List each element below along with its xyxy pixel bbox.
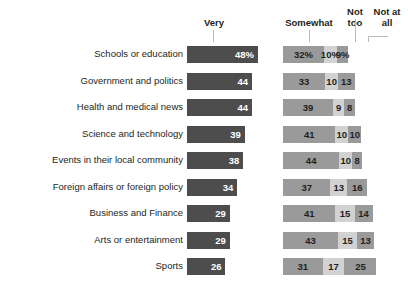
category-label: Events in their local community	[0, 150, 183, 170]
very-value: 38	[229, 152, 240, 169]
chart-row: Foreign affairs or foreign policy3437131…	[0, 177, 408, 197]
category-label: Government and politics	[0, 71, 183, 91]
segment-not-at-all: 13	[357, 232, 374, 249]
segment-not-too: 15	[338, 232, 357, 249]
segment-somewhat-value: 32%	[294, 49, 313, 60]
segment-not-too-value: 15	[340, 208, 351, 219]
segment-somewhat-value: 31	[298, 261, 309, 272]
segment-not-at-all-value: 13	[341, 76, 352, 87]
segment-not-at-all: 10	[348, 126, 361, 143]
very-value: 34	[223, 179, 234, 196]
segment-somewhat-value: 43	[305, 235, 316, 246]
very-value: 48%	[235, 46, 254, 63]
category-label: Health and medical news	[0, 97, 183, 117]
segment-somewhat: 41	[283, 205, 335, 222]
column-header-somewhat: Somewhat	[278, 18, 340, 29]
segment-not-too: 17	[323, 258, 345, 275]
category-label: Schools or education	[0, 44, 183, 64]
very-bar-wrapper: 29	[187, 205, 230, 222]
leader-line-very	[213, 30, 214, 42]
category-label: Sports	[0, 256, 183, 276]
segment-not-at-all: 9%	[337, 46, 349, 63]
very-value: 44	[238, 73, 249, 90]
chart-row: Health and medical news443998	[0, 97, 408, 117]
column-header-not-at-all: Not at all	[368, 7, 406, 28]
segment-not-too: 10	[339, 152, 352, 169]
segment-not-too: 10	[325, 73, 338, 90]
chart-row: Business and Finance29411514	[0, 203, 408, 223]
segment-not-at-all-value: 16	[352, 182, 363, 193]
leader-line-not-too	[355, 19, 356, 42]
segment-not-too: 13	[330, 179, 347, 196]
segment-not-too: 10	[335, 126, 348, 143]
stacked-bar: 331013	[283, 73, 355, 90]
chart-row: Events in their local community3844108	[0, 150, 408, 170]
segment-not-at-all-value: 25	[355, 261, 366, 272]
category-label: Foreign affairs or foreign policy	[0, 177, 183, 197]
segment-somewhat: 37	[283, 179, 330, 196]
segment-somewhat: 31	[283, 258, 323, 275]
interest-by-topic-chart: Very Somewhat Not too Not at all Schools…	[0, 0, 408, 292]
very-bar: 39	[187, 126, 245, 143]
very-value: 29	[215, 232, 226, 249]
category-label: Science and technology	[0, 124, 183, 144]
segment-not-at-all: 8	[344, 99, 354, 116]
very-bar: 44	[187, 99, 252, 116]
segment-not-too-value: 13	[333, 182, 344, 193]
segment-somewhat: 32%	[283, 46, 324, 63]
segment-somewhat: 43	[283, 232, 338, 249]
stacked-bar: 371316	[283, 179, 367, 196]
very-bar: 38	[187, 152, 243, 169]
stacked-bar: 431513	[283, 232, 374, 249]
stacked-bar: 32%10%9%	[283, 46, 348, 63]
stacked-bar: 411514	[283, 205, 373, 222]
segment-somewhat-value: 41	[304, 129, 315, 140]
very-bar: 34	[187, 179, 237, 196]
segment-somewhat-value: 41	[304, 208, 315, 219]
stacked-bar: 411010	[283, 126, 361, 143]
segment-not-too-value: 15	[342, 235, 353, 246]
very-value: 44	[238, 99, 249, 116]
very-bar-wrapper: 38	[187, 152, 243, 169]
very-bar: 48%	[187, 46, 258, 63]
segment-not-at-all: 13	[338, 73, 355, 90]
leader-line-not-at-all-drop	[368, 36, 369, 42]
very-bar-wrapper: 26	[187, 258, 225, 275]
very-bar-wrapper: 29	[187, 232, 230, 249]
segment-somewhat-value: 44	[306, 155, 317, 166]
very-value: 29	[215, 205, 226, 222]
segment-not-too-value: 9	[336, 102, 341, 113]
very-bar-wrapper: 44	[187, 73, 252, 90]
segment-not-at-all: 25	[344, 258, 376, 275]
segment-not-too-value: 10	[326, 76, 337, 87]
very-value: 39	[230, 126, 241, 143]
very-value: 26	[211, 258, 222, 275]
chart-row: Sports26311725	[0, 256, 408, 276]
segment-not-too: 9	[333, 99, 345, 116]
chart-row: Arts or entertainment29431513	[0, 230, 408, 250]
segment-somewhat: 39	[283, 99, 333, 116]
segment-not-too-value: 10	[337, 129, 348, 140]
chart-row: Schools or education48%32%10%9%	[0, 44, 408, 64]
leader-line-not-at-all	[368, 36, 388, 37]
stacked-bar: 44108	[283, 152, 362, 169]
segment-somewhat-value: 39	[303, 102, 314, 113]
very-bar-wrapper: 34	[187, 179, 237, 196]
very-bar-wrapper: 39	[187, 126, 245, 143]
segment-somewhat: 41	[283, 126, 335, 143]
segment-not-at-all-value: 14	[358, 208, 369, 219]
very-bar: 29	[187, 232, 230, 249]
chart-header: Very Somewhat Not too Not at all	[0, 0, 408, 42]
segment-not-at-all-value: 13	[360, 235, 371, 246]
stacked-bar: 3998	[283, 99, 355, 116]
chart-row: Science and technology39411010	[0, 124, 408, 144]
segment-somewhat: 44	[283, 152, 339, 169]
category-label: Business and Finance	[0, 203, 183, 223]
segment-somewhat-value: 33	[299, 76, 310, 87]
column-header-very: Very	[186, 18, 242, 29]
segment-not-too-value: 10	[340, 155, 351, 166]
very-bar: 29	[187, 205, 230, 222]
very-bar-wrapper: 44	[187, 99, 252, 116]
segment-not-at-all: 14	[355, 205, 373, 222]
chart-row: Government and politics44331013	[0, 71, 408, 91]
